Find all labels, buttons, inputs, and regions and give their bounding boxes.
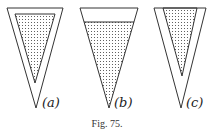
panel-label-c: (c)	[186, 96, 203, 109]
panel-label-a: (a)	[42, 96, 60, 109]
figure-caption: Fig. 75.	[0, 118, 214, 129]
cone-c	[154, 8, 206, 108]
cone-a	[7, 8, 63, 108]
panel-label-b: (b)	[114, 96, 132, 109]
figure-drawing	[0, 0, 214, 134]
cone-b	[80, 8, 138, 108]
